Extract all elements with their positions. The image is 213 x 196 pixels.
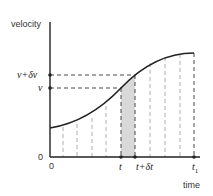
label-t: t [119, 161, 122, 172]
shaded-strip [121, 75, 135, 157]
dot-t1 [192, 155, 196, 159]
velocity-time-diagram: velocity time 0 0 v+δv v t t+δt t1 [0, 0, 213, 196]
x-axis-label: time [183, 180, 200, 190]
y-axis-label: velocity [11, 19, 42, 29]
dot-t-plus-dt [133, 155, 137, 159]
dot-t [119, 155, 123, 159]
label-v-plus-dv: v+δv [17, 69, 38, 80]
origin-y-label: 0 [38, 152, 43, 162]
origin-x-label: 0 [49, 161, 54, 171]
dot-v-plus-dv [48, 73, 52, 77]
dot-v [48, 86, 52, 90]
label-t1: t1 [192, 161, 199, 175]
label-t-plus-dt: t+δt [136, 161, 153, 172]
label-v: v [38, 82, 43, 93]
